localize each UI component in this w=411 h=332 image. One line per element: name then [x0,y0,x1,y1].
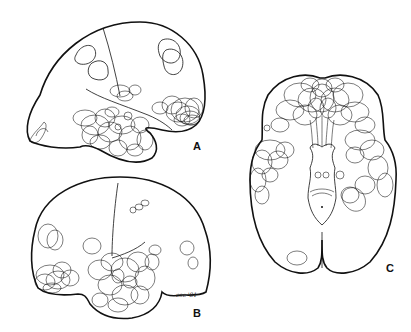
panel-c-brainstem [308,144,336,225]
brain-figure: .ol { fill: none; stroke: #111; stroke-w… [0,0,411,332]
panel-c-lesion-cluster-frontal [264,78,375,133]
panel-label-a: A [193,140,201,152]
panel-b-lesion-cluster-posterior [35,262,79,293]
panel-label-b: B [193,307,201,319]
panel-a-brain [27,22,205,162]
panel-c-lesion-cluster-right-temporal [341,130,393,211]
panel-a-lesion-cluster-frontal-pole [152,96,203,126]
panel-b-lesion-cluster-temporal [88,245,161,312]
panel-c-brain [250,75,396,273]
panel-label-c: C [386,262,394,274]
signature: esc '81 [176,291,197,298]
panel-a-lesion-cluster-temporal [73,107,153,156]
